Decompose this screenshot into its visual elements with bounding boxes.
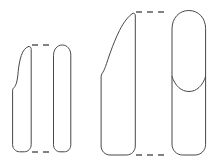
parallel-sided-blade-outline[interactable]	[54, 45, 71, 152]
figure-drawing: Comparative outline drawings of four elo…	[0, 0, 217, 164]
rounded-top-blade-outline[interactable]	[172, 11, 206, 156]
figure-container: Comparative outline drawings of four elo…	[0, 0, 217, 164]
